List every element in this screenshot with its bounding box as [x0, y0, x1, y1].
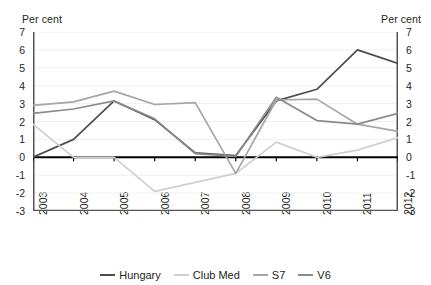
y-tick-label-left: -1 [11, 170, 25, 181]
legend-item-hungary[interactable]: Hungary [100, 269, 161, 281]
legend-label: Hungary [119, 269, 161, 281]
y-tick-label-right: 6 [406, 45, 420, 56]
x-tick-label: 2012 [403, 192, 414, 215]
y-tick-label-left: 2 [11, 117, 25, 128]
y-tick-label-left: 1 [11, 134, 25, 145]
y-tick-label-right: 1 [406, 134, 420, 145]
legend-label: Club Med [193, 269, 240, 281]
legend-label: S7 [272, 269, 285, 281]
chart-legend: HungaryClub MedS7V6 [0, 269, 431, 281]
y-tick-label-left: 3 [11, 99, 25, 110]
legend-item-s7[interactable]: S7 [253, 269, 285, 281]
left-axis-unit-label: Per cent [22, 13, 62, 25]
y-tick-label-left: 5 [11, 63, 25, 74]
legend-item-v6[interactable]: V6 [298, 269, 330, 281]
legend-swatch-icon [174, 274, 189, 276]
legend-swatch-icon [298, 274, 313, 276]
y-tick-label-left: 6 [11, 45, 25, 56]
right-axis-unit-label: Per cent [381, 13, 421, 25]
legend-swatch-icon [253, 274, 268, 276]
y-tick-label-right: 3 [406, 99, 420, 110]
legend-swatch-icon [100, 274, 115, 276]
y-tick-label-right: 4 [406, 81, 420, 92]
y-tick-label-right: 5 [406, 63, 420, 74]
y-tick-label-right: 2 [406, 117, 420, 128]
legend-item-club-med[interactable]: Club Med [174, 269, 240, 281]
legend-label: V6 [317, 269, 330, 281]
y-tick-label-right: 0 [406, 152, 420, 163]
y-tick-label-left: 7 [11, 27, 25, 38]
chart-container: Per cent Per cent 76543210-1-2-3 7654321… [0, 0, 431, 285]
y-tick-label-left: -3 [11, 206, 25, 217]
y-tick-label-left: 0 [11, 152, 25, 163]
y-tick-label-right: -1 [406, 170, 420, 181]
y-tick-label-left: 4 [11, 81, 25, 92]
plot-area [33, 32, 398, 211]
y-tick-label-left: -2 [11, 188, 25, 199]
y-tick-label-right: 7 [406, 27, 420, 38]
series-svg [33, 32, 398, 211]
